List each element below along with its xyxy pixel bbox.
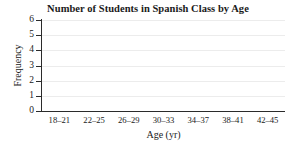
- x-axis-tick-label: 38–41: [216, 114, 251, 127]
- x-axis-title: Age (yr): [42, 129, 285, 140]
- x-axis-tick-label: 34–37: [181, 114, 216, 127]
- y-axis-tick-label: 2: [22, 76, 34, 86]
- x-axis-tick-label: 30–33: [146, 114, 181, 127]
- chart-title: Number of Students in Spanish Class by A…: [0, 3, 296, 14]
- y-axis-title-label: Frequency: [12, 44, 23, 86]
- x-axis-line: [41, 111, 285, 112]
- x-axis-tick-label: 22–25: [77, 114, 112, 127]
- bar-chart-figure: Number of Students in Spanish Class by A…: [0, 0, 296, 152]
- y-axis-tick-label: 0: [22, 106, 34, 116]
- y-axis-tick-label: 3: [22, 61, 34, 71]
- x-axis-tick-label: 42–45: [250, 114, 285, 127]
- x-axis-tick-label: 26–29: [111, 114, 146, 127]
- x-axis-tick-labels: 18–2122–2526–2930–3334–3738–4142–45: [42, 114, 285, 127]
- x-axis-tick-label: 18–21: [42, 114, 77, 127]
- y-axis-tick-label: 6: [22, 15, 34, 25]
- y-axis-tick-label: 4: [22, 45, 34, 55]
- plot-area: [42, 20, 285, 111]
- y-axis-tick-label: 1: [22, 91, 34, 101]
- y-axis-tick-label: 5: [22, 30, 34, 40]
